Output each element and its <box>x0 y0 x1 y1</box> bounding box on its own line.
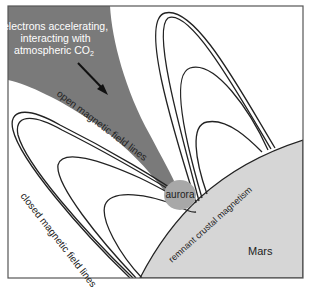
mars-aurora-diagram: electrons accelerating, interacting with… <box>0 0 310 288</box>
aurora-label: aurora <box>166 189 195 200</box>
mars-label: Mars <box>248 245 273 257</box>
